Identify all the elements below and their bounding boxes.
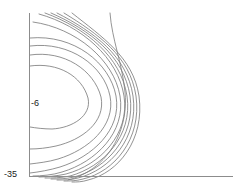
contour-plot-canvas: -6 -35 (0, 0, 240, 189)
contour-label-outer: -35 (4, 169, 17, 179)
contour-plot-figure: -6 -35 (0, 0, 240, 189)
contour-label-inner: -6 (31, 98, 39, 108)
